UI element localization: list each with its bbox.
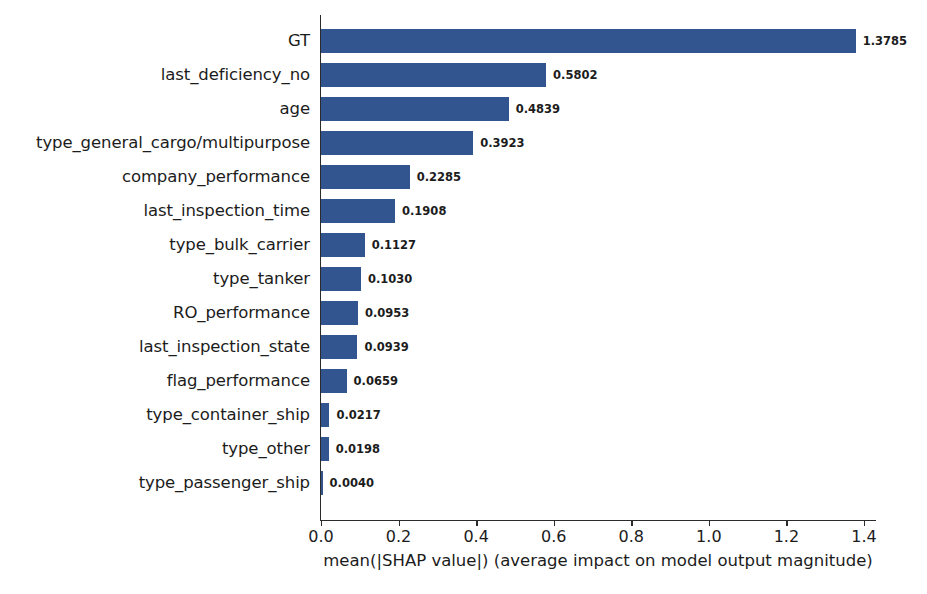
bar-value-label: 0.1030 (361, 267, 412, 291)
x-tick-mark (709, 520, 710, 526)
bar-row: type_general_cargo/multipurpose0.3923 (0, 126, 927, 160)
bar-row: last_inspection_state0.0939 (0, 330, 927, 364)
bar-row: company_performance0.2285 (0, 160, 927, 194)
x-tick-mark (786, 520, 787, 526)
bar-value-label: 0.0939 (357, 335, 408, 359)
feature-label: last_inspection_state (0, 330, 310, 364)
bar-value-label: 0.0659 (347, 369, 398, 393)
bar (321, 63, 546, 87)
bar (321, 437, 329, 461)
bar-wrapper (321, 24, 856, 58)
x-tick-label: 1.2 (756, 527, 816, 546)
bar (321, 267, 361, 291)
feature-label: age (0, 92, 310, 126)
x-tick-mark (476, 520, 477, 526)
feature-label: flag_performance (0, 364, 310, 398)
bar-row: last_inspection_time0.1908 (0, 194, 927, 228)
bar-value-label: 0.1127 (365, 233, 416, 257)
bar-value-label: 0.3923 (473, 131, 524, 155)
bar-wrapper (321, 330, 357, 364)
bar (321, 199, 395, 223)
bar-row: GT1.3785 (0, 24, 927, 58)
bar-row: type_other0.0198 (0, 432, 927, 466)
bar-row: type_container_ship0.0217 (0, 398, 927, 432)
x-tick-mark (554, 520, 555, 526)
bar-wrapper (321, 364, 347, 398)
x-tick-mark (631, 520, 632, 526)
bar-wrapper (321, 126, 473, 160)
bar-row: RO_performance0.0953 (0, 296, 927, 330)
x-tick-label: 0.0 (291, 527, 351, 546)
feature-label: GT (0, 24, 310, 58)
bar (321, 233, 365, 257)
bar-wrapper (321, 160, 410, 194)
bar-value-label: 0.0198 (329, 437, 380, 461)
bar-value-label: 0.5802 (546, 63, 597, 87)
bar (321, 165, 410, 189)
bar (321, 403, 329, 427)
bar (321, 131, 473, 155)
bar-value-label: 1.3785 (856, 29, 907, 53)
bar-row: last_deficiency_no0.5802 (0, 58, 927, 92)
bar (321, 97, 509, 121)
x-tick-label: 1.0 (679, 527, 739, 546)
feature-label: type_container_ship (0, 398, 310, 432)
bar-wrapper (321, 262, 361, 296)
feature-label: last_inspection_time (0, 194, 310, 228)
bar-wrapper (321, 58, 546, 92)
feature-label: last_deficiency_no (0, 58, 310, 92)
x-tick-mark (399, 520, 400, 526)
x-tick-mark (321, 520, 322, 526)
bar-wrapper (321, 296, 358, 330)
feature-label: type_other (0, 432, 310, 466)
bar (321, 29, 856, 53)
bar-wrapper (321, 432, 329, 466)
bar-row: type_bulk_carrier0.1127 (0, 228, 927, 262)
bar-value-label: 0.2285 (410, 165, 461, 189)
bar-row: age0.4839 (0, 92, 927, 126)
x-tick-label: 0.6 (524, 527, 584, 546)
bar-value-label: 0.0953 (358, 301, 409, 325)
x-tick-label: 0.8 (601, 527, 661, 546)
bar-row: type_tanker0.1030 (0, 262, 927, 296)
shap-feature-importance-chart: GT1.3785last_deficiency_no0.5802age0.483… (0, 0, 927, 594)
x-axis-spine (320, 520, 876, 521)
feature-label: type_bulk_carrier (0, 228, 310, 262)
bar-value-label: 0.0217 (329, 403, 380, 427)
bar-wrapper (321, 228, 365, 262)
bar-value-label: 0.0040 (323, 471, 374, 495)
bar-wrapper (321, 194, 395, 228)
bar-row: type_passenger_ship0.0040 (0, 466, 927, 500)
bar (321, 335, 357, 359)
bar-wrapper (321, 92, 509, 126)
feature-label: type_tanker (0, 262, 310, 296)
bar (321, 301, 358, 325)
feature-label: type_passenger_ship (0, 466, 310, 500)
feature-label: company_performance (0, 160, 310, 194)
x-tick-label: 1.4 (834, 527, 894, 546)
bar-row: flag_performance0.0659 (0, 364, 927, 398)
bar-value-label: 0.4839 (509, 97, 560, 121)
x-tick-label: 0.2 (369, 527, 429, 546)
bar (321, 369, 347, 393)
bar-wrapper (321, 398, 329, 432)
feature-label: RO_performance (0, 296, 310, 330)
feature-label: type_general_cargo/multipurpose (0, 126, 310, 160)
x-axis-title: mean(|SHAP value|) (average impact on mo… (320, 551, 876, 570)
bar-value-label: 0.1908 (395, 199, 446, 223)
x-tick-label: 0.4 (446, 527, 506, 546)
x-tick-mark (864, 520, 865, 526)
